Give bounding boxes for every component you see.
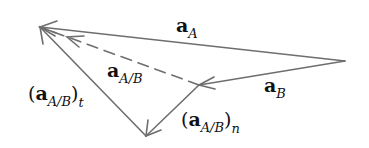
label-a-A-B-symbol: a (107, 59, 119, 81)
label-a-A-B-normal: (aA/B)n (181, 110, 240, 129)
label-a-A-symbol: a (176, 14, 188, 36)
label-a-A-B: aA/B (107, 61, 143, 80)
label-a-B-symbol: a (264, 74, 276, 96)
label-a-A-B-subscript: A/B (119, 71, 142, 86)
label-n-subscript: n (231, 121, 239, 136)
label-a-A-B-tangential: (aA/B)t (28, 84, 84, 103)
label-a-B-subscript: B (276, 86, 286, 101)
arrowhead-a-A-B-icon (67, 36, 84, 47)
label-t-subscript: t (78, 95, 83, 110)
label-a-B: aB (264, 76, 286, 95)
label-a-A-B-n-symbol: a (188, 108, 200, 130)
acceleration-vector-diagram: aA aA/B aB (aA/B)t (aA/B)n (0, 0, 369, 148)
label-a-A: aA (176, 16, 198, 35)
label-a-A-subscript: A (188, 26, 197, 41)
label-a-A-B-t-symbol: a (35, 82, 47, 104)
label-a-A-B-t-subscript: A/B (48, 94, 71, 109)
label-a-A-B-n-subscript: A/B (201, 120, 224, 135)
